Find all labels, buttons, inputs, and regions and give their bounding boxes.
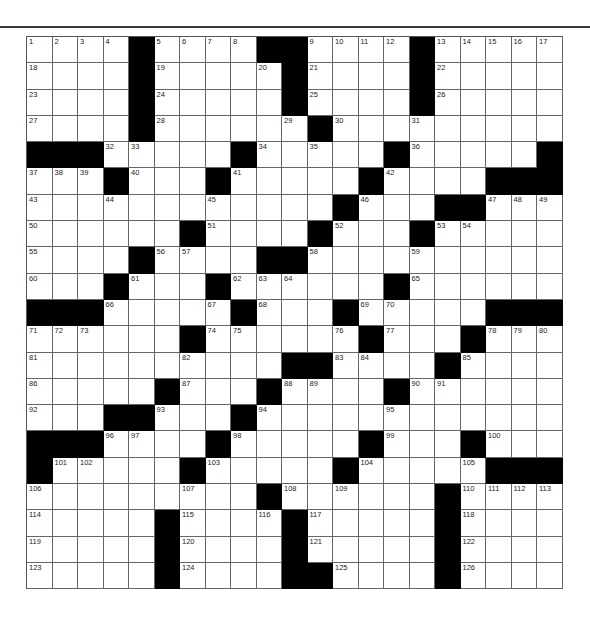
grid-cell[interactable] [53, 63, 79, 89]
grid-cell[interactable] [537, 274, 563, 300]
grid-cell[interactable] [308, 405, 334, 431]
grid-cell[interactable] [333, 274, 359, 300]
grid-cell[interactable] [435, 300, 461, 326]
grid-cell[interactable]: 67 [206, 300, 232, 326]
grid-cell[interactable]: 20 [257, 63, 283, 89]
grid-cell[interactable]: 27 [27, 116, 53, 142]
grid-cell[interactable] [155, 300, 181, 326]
grid-cell[interactable] [257, 116, 283, 142]
grid-cell[interactable]: 30 [333, 116, 359, 142]
grid-cell[interactable]: 81 [27, 353, 53, 379]
grid-cell[interactable] [53, 274, 79, 300]
grid-cell[interactable] [53, 195, 79, 221]
grid-cell[interactable] [180, 116, 206, 142]
grid-cell[interactable] [104, 247, 130, 273]
grid-cell[interactable] [180, 168, 206, 194]
grid-cell[interactable]: 57 [180, 247, 206, 273]
grid-cell[interactable] [333, 405, 359, 431]
grid-cell[interactable] [537, 353, 563, 379]
grid-cell[interactable]: 35 [308, 142, 334, 168]
grid-cell[interactable]: 32 [104, 142, 130, 168]
grid-cell[interactable] [384, 353, 410, 379]
grid-cell[interactable]: 107 [180, 484, 206, 510]
grid-cell[interactable] [257, 431, 283, 457]
grid-cell[interactable]: 63 [257, 274, 283, 300]
grid-cell[interactable]: 43 [27, 195, 53, 221]
grid-cell[interactable]: 110 [461, 484, 487, 510]
grid-cell[interactable] [359, 142, 385, 168]
grid-cell[interactable]: 45 [206, 195, 232, 221]
grid-cell[interactable]: 37 [27, 168, 53, 194]
grid-cell[interactable] [78, 537, 104, 563]
grid-cell[interactable] [486, 142, 512, 168]
grid-cell[interactable]: 99 [384, 431, 410, 457]
grid-cell[interactable] [384, 537, 410, 563]
grid-cell[interactable] [104, 563, 130, 589]
grid-cell[interactable] [410, 510, 436, 536]
grid-cell[interactable]: 122 [461, 537, 487, 563]
grid-cell[interactable] [410, 353, 436, 379]
grid-cell[interactable]: 3 [78, 37, 104, 63]
grid-cell[interactable] [104, 326, 130, 352]
grid-cell[interactable] [129, 221, 155, 247]
grid-cell[interactable] [155, 274, 181, 300]
grid-cell[interactable] [129, 326, 155, 352]
grid-cell[interactable] [308, 300, 334, 326]
grid-cell[interactable] [461, 63, 487, 89]
grid-cell[interactable] [410, 563, 436, 589]
grid-cell[interactable] [308, 168, 334, 194]
grid-cell[interactable] [333, 168, 359, 194]
grid-cell[interactable] [384, 247, 410, 273]
grid-cell[interactable] [282, 458, 308, 484]
grid-cell[interactable]: 95 [384, 405, 410, 431]
grid-cell[interactable]: 21 [308, 63, 334, 89]
grid-cell[interactable]: 77 [384, 326, 410, 352]
grid-cell[interactable] [206, 116, 232, 142]
grid-cell[interactable] [231, 353, 257, 379]
grid-cell[interactable] [512, 247, 538, 273]
grid-cell[interactable] [435, 326, 461, 352]
grid-cell[interactable] [410, 484, 436, 510]
grid-cell[interactable]: 68 [257, 300, 283, 326]
grid-cell[interactable] [129, 353, 155, 379]
grid-cell[interactable]: 80 [537, 326, 563, 352]
grid-cell[interactable]: 65 [410, 274, 436, 300]
grid-cell[interactable] [384, 484, 410, 510]
grid-cell[interactable]: 93 [155, 405, 181, 431]
grid-cell[interactable]: 54 [461, 221, 487, 247]
grid-cell[interactable] [155, 168, 181, 194]
grid-cell[interactable] [78, 63, 104, 89]
grid-cell[interactable]: 71 [27, 326, 53, 352]
grid-cell[interactable] [410, 431, 436, 457]
grid-cell[interactable] [231, 563, 257, 589]
grid-cell[interactable]: 114 [27, 510, 53, 536]
grid-cell[interactable] [435, 405, 461, 431]
grid-cell[interactable] [410, 300, 436, 326]
grid-cell[interactable]: 62 [231, 274, 257, 300]
grid-cell[interactable] [435, 458, 461, 484]
grid-cell[interactable] [461, 274, 487, 300]
grid-cell[interactable] [512, 537, 538, 563]
grid-cell[interactable]: 87 [180, 379, 206, 405]
grid-cell[interactable] [78, 510, 104, 536]
grid-cell[interactable] [359, 379, 385, 405]
grid-cell[interactable] [359, 247, 385, 273]
grid-cell[interactable]: 112 [512, 484, 538, 510]
grid-cell[interactable] [129, 563, 155, 589]
grid-cell[interactable] [78, 116, 104, 142]
grid-cell[interactable] [384, 510, 410, 536]
grid-cell[interactable]: 97 [129, 431, 155, 457]
grid-cell[interactable] [435, 116, 461, 142]
grid-cell[interactable]: 84 [359, 353, 385, 379]
grid-cell[interactable] [537, 405, 563, 431]
grid-cell[interactable] [537, 563, 563, 589]
grid-cell[interactable] [78, 247, 104, 273]
grid-cell[interactable]: 98 [231, 431, 257, 457]
grid-cell[interactable] [104, 63, 130, 89]
grid-cell[interactable] [435, 431, 461, 457]
grid-cell[interactable]: 12 [384, 37, 410, 63]
grid-cell[interactable]: 89 [308, 379, 334, 405]
grid-cell[interactable] [206, 247, 232, 273]
grid-cell[interactable]: 85 [461, 353, 487, 379]
grid-cell[interactable] [155, 484, 181, 510]
